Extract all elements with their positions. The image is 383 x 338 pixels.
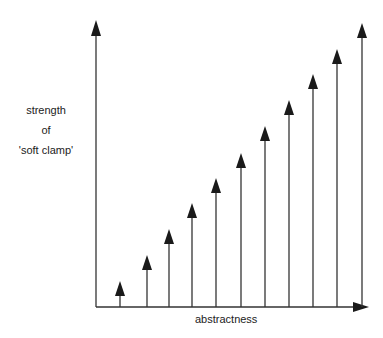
arrowhead-icon-3 <box>164 229 174 244</box>
arrowhead-icon-8 <box>284 100 294 115</box>
arrow-diagram <box>0 0 383 338</box>
y-axis-label-line3: 'soft clamp' <box>6 144 86 156</box>
arrowhead-icon-6 <box>236 153 246 168</box>
arrowhead-icon-11 <box>357 23 367 38</box>
arrowhead-icon-5 <box>211 178 221 193</box>
diagram: strength of 'soft clamp' abstractness <box>0 0 383 338</box>
arrowhead-icon-2 <box>142 255 152 270</box>
x-axis-label: abstractness <box>195 313 257 325</box>
y-axis-label-line2: of <box>6 124 86 136</box>
x-axis-arrowhead-icon <box>353 302 369 312</box>
arrowhead-icon-9 <box>308 74 318 89</box>
arrowhead-icon-1 <box>115 281 125 296</box>
y-axis-arrowhead-icon <box>91 20 101 36</box>
arrowhead-icon-10 <box>332 49 342 64</box>
arrowhead-icon-7 <box>260 126 270 141</box>
y-axis-label-line1: strength <box>6 104 86 116</box>
arrowhead-icon-4 <box>187 203 197 218</box>
